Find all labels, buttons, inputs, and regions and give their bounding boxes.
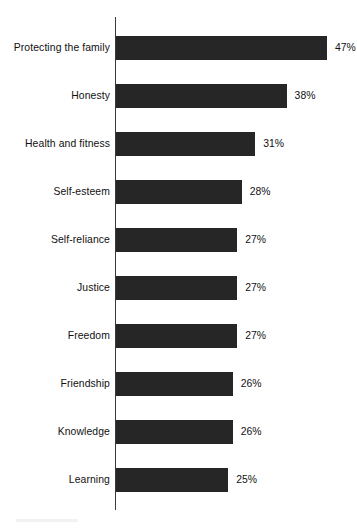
bar (116, 132, 255, 156)
category-label: Health and fitness (25, 132, 110, 156)
bar-value-label: 27% (245, 228, 266, 252)
bar-value-label: 28% (250, 180, 271, 204)
bar-value-label: 27% (245, 276, 266, 300)
category-label: Self-reliance (51, 228, 110, 252)
bar-row: Health and fitness31% (0, 132, 357, 156)
category-label: Friendship (60, 372, 110, 396)
bar (116, 468, 228, 492)
category-label: Freedom (68, 324, 110, 348)
bar (116, 372, 233, 396)
bar-value-label: 38% (295, 84, 316, 108)
category-label: Self-esteem (53, 180, 110, 204)
bar-chart: Protecting the family47%Honesty38%Health… (0, 0, 357, 529)
bar-value-label: 31% (263, 132, 284, 156)
bar-row: Freedom27% (0, 324, 357, 348)
bar-row: Protecting the family47% (0, 36, 357, 60)
bar-row: Friendship26% (0, 372, 357, 396)
bar-value-label: 27% (245, 324, 266, 348)
category-label: Honesty (71, 84, 110, 108)
bar-value-label: 26% (241, 420, 262, 444)
bar-row: Justice27% (0, 276, 357, 300)
bar (116, 84, 287, 108)
bar-value-label: 26% (241, 372, 262, 396)
bar (116, 36, 327, 60)
scan-artifact (16, 519, 78, 522)
bar-row: Learning25% (0, 468, 357, 492)
bar (116, 180, 242, 204)
bar-row: Self-esteem28% (0, 180, 357, 204)
bar (116, 420, 233, 444)
category-label: Protecting the family (14, 36, 110, 60)
bar (116, 228, 237, 252)
chart-plot-area: Protecting the family47%Honesty38%Health… (0, 0, 357, 529)
category-label: Learning (69, 468, 110, 492)
bar (116, 276, 237, 300)
bar-value-label: 47% (335, 36, 356, 60)
bar-row: Knowledge26% (0, 420, 357, 444)
bar-value-label: 25% (236, 468, 257, 492)
category-label: Knowledge (58, 420, 110, 444)
category-label: Justice (77, 276, 110, 300)
bar-row: Self-reliance27% (0, 228, 357, 252)
bar-row: Honesty38% (0, 84, 357, 108)
bar (116, 324, 237, 348)
